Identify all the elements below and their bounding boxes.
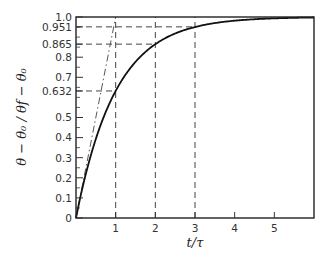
y-tick-label: 0.2 <box>55 172 72 184</box>
y-tick-label: 0.4 <box>55 131 72 143</box>
y-tick-label: 0 <box>65 212 72 224</box>
x-tick-label: 1 <box>112 222 119 234</box>
y-tick-label: 0.8 <box>55 51 72 63</box>
x-tick-label: 2 <box>152 222 159 234</box>
y-tick-label: 0.632 <box>42 85 72 97</box>
x-axis-ticks: 12345 <box>112 212 277 234</box>
y-axis-ticks: 00.10.20.30.40.50.6320.70.80.8650.9511.0 <box>42 11 83 224</box>
y-tick-label: 0.5 <box>55 111 72 123</box>
y-tick-label: 1.0 <box>55 11 72 23</box>
x-tick-label: 5 <box>271 222 278 234</box>
y-tick-label: 0.865 <box>42 38 72 50</box>
time-constant-chart: 00.10.20.30.40.50.6320.70.80.8650.9511.0… <box>0 0 328 261</box>
x-tick-label: 3 <box>192 222 199 234</box>
y-tick-label: 0.7 <box>55 71 72 83</box>
y-axis-label: θ − θ₀ / θf − θ₀ <box>14 67 29 165</box>
x-axis-label: t/τ <box>187 235 205 250</box>
y-tick-label: 0.3 <box>55 152 72 164</box>
y-tick-label: 0.1 <box>55 192 72 204</box>
x-tick-label: 4 <box>231 222 238 234</box>
plot-area <box>76 17 314 218</box>
